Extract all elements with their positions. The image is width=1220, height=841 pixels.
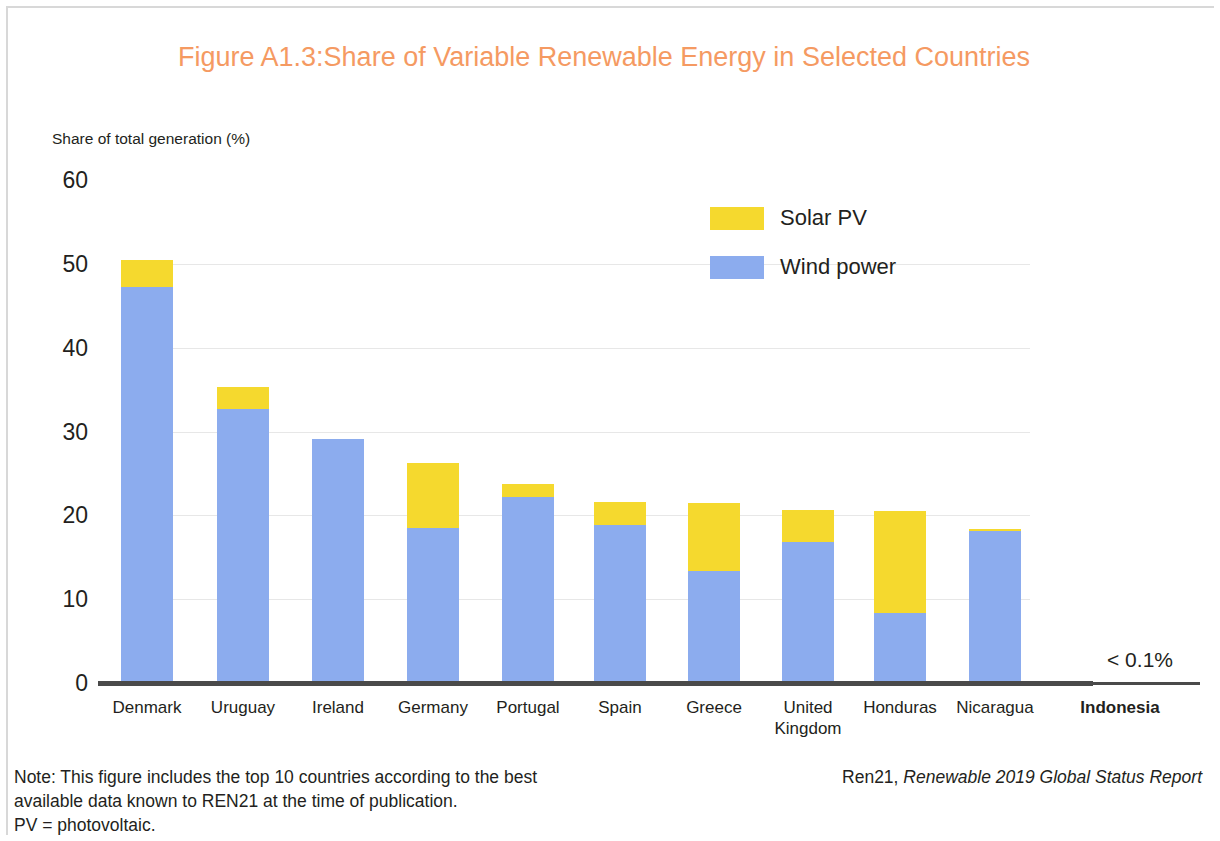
bar-segment-wind xyxy=(217,409,269,683)
y-tick-label: 0 xyxy=(36,670,88,697)
bar-nicaragua xyxy=(969,529,1021,683)
y-tick-label: 20 xyxy=(36,502,88,529)
legend-item-wind: Wind power xyxy=(710,254,896,280)
bar-segment-wind xyxy=(688,571,740,682)
y-tick-label: 40 xyxy=(36,334,88,361)
legend-swatch-wind-icon xyxy=(710,256,764,279)
bar-spain xyxy=(594,502,646,683)
bar-segment-wind xyxy=(312,439,364,683)
bar-segment-solar xyxy=(407,463,459,528)
bar-segment-wind xyxy=(594,525,646,683)
bar-segment-wind xyxy=(874,613,926,683)
figure-source: Ren21, Renewable 2019 Global Status Repo… xyxy=(842,765,1202,789)
note-line-1: Note: This figure includes the top 10 co… xyxy=(14,765,654,789)
bar-segment-solar xyxy=(688,503,740,572)
bar-honduras xyxy=(874,511,926,683)
bar-segment-solar xyxy=(782,510,834,542)
bar-germany xyxy=(407,463,459,683)
note-line-3: PV = photovoltaic. xyxy=(14,813,654,837)
legend-item-solar: Solar PV xyxy=(710,205,896,231)
note-line-2: available data known to REN21 at the tim… xyxy=(14,789,654,813)
bar-segment-solar xyxy=(121,260,173,288)
bar-segment-wind xyxy=(502,497,554,683)
legend-swatch-solar-icon xyxy=(710,207,764,230)
y-tick-label: 50 xyxy=(36,250,88,277)
bar-portugal xyxy=(502,484,554,683)
bar-segment-wind xyxy=(407,528,459,683)
figure-page: Figure A1.3:Share of Variable Renewable … xyxy=(0,0,1220,841)
bar-denmark xyxy=(121,260,173,683)
bar-uruguay xyxy=(217,387,269,683)
bar-united-kingdom xyxy=(782,510,834,683)
bar-segment-solar xyxy=(594,502,646,525)
bar-segment-wind xyxy=(969,531,1021,683)
indonesia-baseline xyxy=(1078,682,1200,685)
figure-note: Note: This figure includes the top 10 co… xyxy=(14,765,654,837)
y-tick-label: 60 xyxy=(36,167,88,194)
legend-label-solar: Solar PV xyxy=(780,205,867,231)
x-label-indonesia: Indonesia xyxy=(1060,697,1180,718)
bar-segment-wind xyxy=(782,542,834,683)
chart-plot-area: 0102030405060 DenmarkUruguayIrelandGerma… xyxy=(0,0,1220,841)
y-tick-label: 30 xyxy=(36,418,88,445)
bar-segment-solar xyxy=(502,484,554,497)
y-tick-label: 10 xyxy=(36,586,88,613)
indonesia-value-annotation: < 0.1% xyxy=(1070,648,1210,672)
chart-legend: Solar PV Wind power xyxy=(710,205,896,303)
x-axis-baseline xyxy=(98,681,1093,686)
gridline xyxy=(130,348,1030,349)
bar-segment-solar xyxy=(217,387,269,409)
x-label-nicaragua: Nicaragua xyxy=(935,697,1055,718)
source-prefix: Ren21, xyxy=(842,767,903,787)
bar-greece xyxy=(688,503,740,683)
source-title: Renewable 2019 Global Status Report xyxy=(903,767,1202,787)
bar-segment-solar xyxy=(874,511,926,612)
bar-segment-wind xyxy=(121,287,173,683)
legend-label-wind: Wind power xyxy=(780,254,896,280)
bar-ireland xyxy=(312,439,364,683)
